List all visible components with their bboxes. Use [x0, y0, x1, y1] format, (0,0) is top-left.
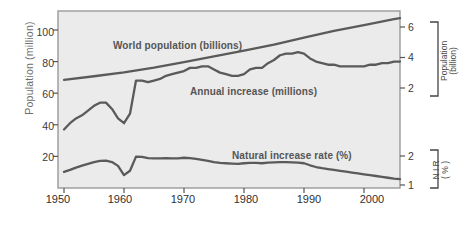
right-nir-axis-title-line2: ( % ) [441, 149, 450, 191]
right-pop-tick-2: 2 [408, 82, 424, 94]
left-tick-20: 20 [28, 151, 54, 163]
x-tick-1980: 1980 [226, 193, 266, 205]
x-tick-1960: 1960 [100, 193, 140, 205]
left-tick-60: 60 [28, 88, 54, 100]
left-tick-80: 80 [28, 57, 54, 69]
x-tick-1970: 1970 [163, 193, 203, 205]
x-tick-1990: 1990 [289, 193, 329, 205]
world-population-label: World population (billions) [113, 40, 242, 51]
annual-increase-label: Annual increase (millions) [190, 86, 317, 97]
right-population-axis-title-line2: (billion) [449, 30, 458, 92]
right-nir-tick-1: 1 [408, 179, 424, 191]
natural-increase-rate-label: Natural increase rate (%) [232, 150, 352, 161]
left-tick-40: 40 [28, 120, 54, 132]
right-pop-tick-6: 6 [408, 21, 424, 33]
x-tick-1950: 1950 [38, 193, 78, 205]
right-population-axis-title: Population (billion) [440, 30, 458, 92]
right-nir-axis-title: N I R ( % ) [432, 149, 450, 191]
right-pop-tick-4: 4 [408, 51, 424, 63]
left-tick-100: 100 [28, 26, 54, 38]
right-nir-tick-2: 2 [408, 150, 424, 162]
population-chart-figure: Population (million) 100 80 60 40 20 6 4… [0, 0, 465, 227]
right-population-bracket [430, 22, 438, 96]
x-tick-2000: 2000 [352, 193, 392, 205]
